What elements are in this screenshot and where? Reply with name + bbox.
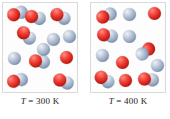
- molecule-diatomic: [92, 68, 117, 90]
- atom-blue: [96, 49, 109, 62]
- molecule-diatomic: [48, 6, 73, 27]
- gas-container-box-300k: [2, 2, 78, 93]
- molecule-atom: [116, 56, 129, 69]
- molecule-diatomic: [14, 24, 38, 48]
- temperature-value-400k: 400 K: [124, 96, 147, 106]
- atom-blue: [151, 59, 164, 72]
- molecular-temperature-figure: T = 300 K T = 400 K: [0, 0, 170, 119]
- molecule-diatomic: [137, 72, 159, 87]
- atom-blue: [123, 8, 136, 21]
- molecule-atom: [8, 52, 21, 65]
- atom-blue: [8, 52, 21, 65]
- molecule-diatomic: [94, 6, 118, 26]
- panel-300k: [2, 2, 78, 93]
- atom-red: [148, 7, 161, 20]
- molecule-diatomic: [51, 72, 75, 92]
- atom-red: [116, 56, 129, 69]
- molecule-diatomic: [6, 72, 29, 89]
- atom-blue: [37, 43, 50, 56]
- molecule-atom: [123, 8, 136, 21]
- molecule-atom: [60, 51, 73, 64]
- temperature-value-300k: 300 K: [36, 96, 59, 106]
- gas-container-box-400k: [90, 2, 166, 93]
- molecule-atom: [123, 30, 136, 43]
- molecule-atom: [63, 30, 76, 43]
- atom-blue: [123, 30, 136, 43]
- atom-red: [119, 74, 132, 87]
- molecule-atom: [151, 59, 164, 72]
- atom-blue: [63, 30, 76, 43]
- caption-400k: T = 400 K: [90, 96, 166, 106]
- molecule-diatomic: [96, 27, 119, 43]
- molecule-atom: [96, 49, 109, 62]
- atom-red: [60, 51, 73, 64]
- caption-300k: T = 300 K: [2, 96, 78, 106]
- molecule-atom: [37, 43, 50, 56]
- molecule-diatomic: [24, 9, 48, 27]
- molecule-atom: [148, 7, 161, 20]
- molecule-atom: [119, 74, 132, 87]
- panel-400k: [90, 2, 166, 93]
